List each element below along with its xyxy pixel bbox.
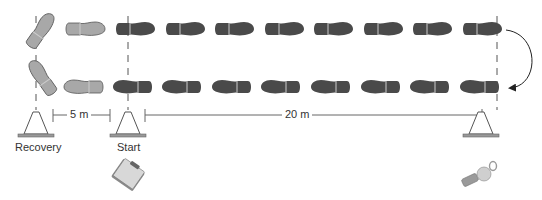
footprint-dark bbox=[116, 22, 155, 35]
sprint-drill-diagram: 5 m 20 m Recovery Start bbox=[0, 0, 542, 200]
footprint-dark bbox=[162, 80, 201, 93]
footprint-dark bbox=[215, 22, 254, 35]
curved-arrow-icon bbox=[506, 30, 532, 88]
footprint-dark bbox=[311, 80, 350, 93]
sprint-distance-line bbox=[145, 109, 482, 122]
whistle-icon bbox=[461, 162, 496, 188]
footprint-light bbox=[64, 80, 103, 93]
footprint-dark bbox=[113, 80, 152, 93]
footprint-light bbox=[24, 11, 57, 51]
bottom-row-footprints bbox=[26, 58, 499, 98]
footprint-dark bbox=[413, 22, 452, 35]
footprint-light bbox=[66, 22, 105, 35]
footprint-light bbox=[26, 58, 59, 98]
footprint-dark bbox=[364, 22, 403, 35]
footprint-dark bbox=[261, 80, 300, 93]
clipboard-icon bbox=[111, 156, 147, 191]
footprint-dark bbox=[166, 22, 205, 35]
footprint-dark bbox=[410, 80, 449, 93]
footprint-dark bbox=[463, 22, 502, 35]
sprint-distance-label: 20 m bbox=[282, 108, 312, 120]
start-label: Start bbox=[117, 141, 140, 153]
footprint-dark bbox=[314, 22, 353, 35]
recovery-label: Recovery bbox=[15, 141, 61, 153]
cone-icon bbox=[110, 112, 146, 137]
diagram-canvas bbox=[0, 0, 542, 200]
footprint-dark bbox=[361, 80, 400, 93]
cone-icon bbox=[18, 112, 54, 137]
top-row-footprints bbox=[24, 11, 502, 51]
footprint-dark bbox=[265, 22, 304, 35]
cone-icon bbox=[463, 112, 499, 137]
footprint-dark bbox=[212, 80, 251, 93]
recovery-distance-label: 5 m bbox=[67, 108, 91, 120]
footprint-dark bbox=[460, 80, 499, 93]
